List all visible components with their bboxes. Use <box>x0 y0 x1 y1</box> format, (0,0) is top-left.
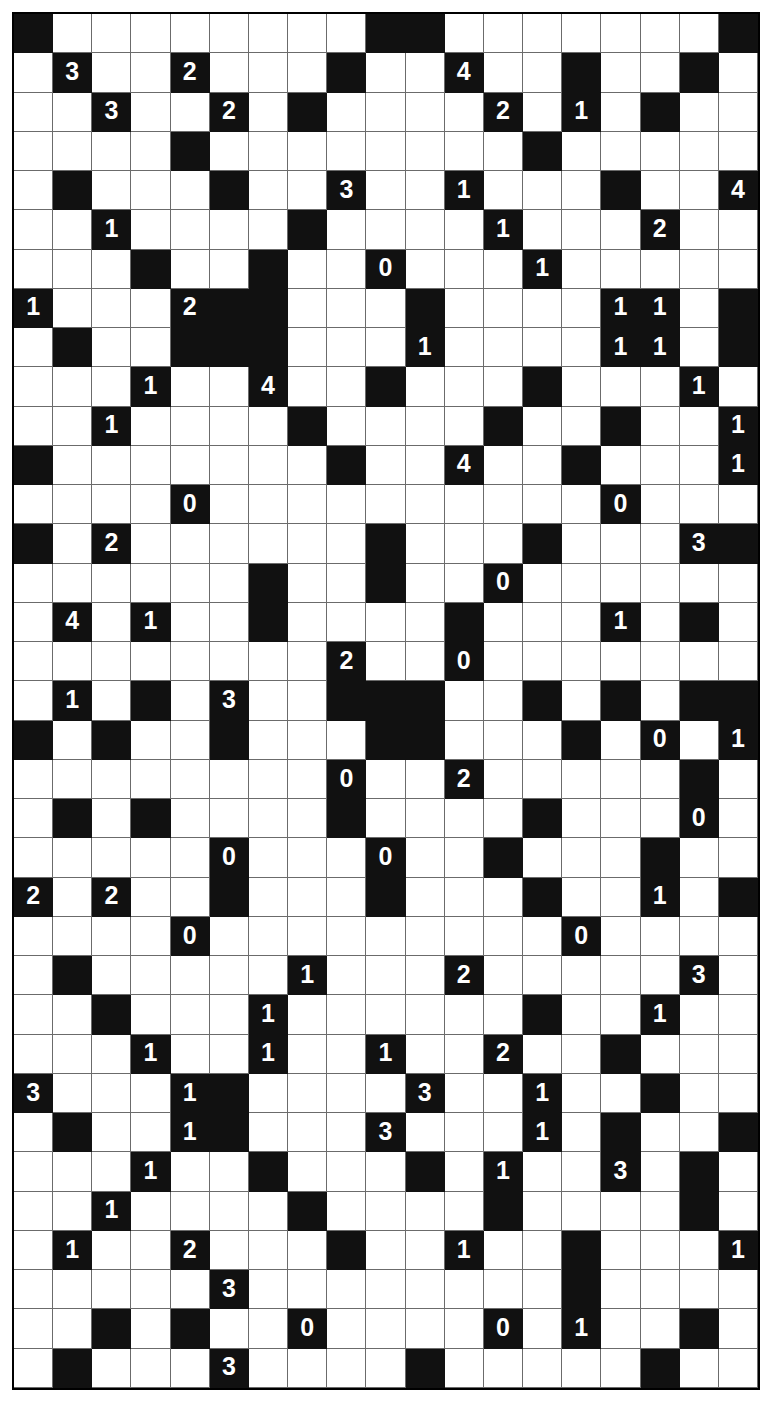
grid-cell-empty[interactable] <box>445 995 484 1034</box>
grid-cell-empty[interactable] <box>288 760 327 799</box>
grid-cell-empty[interactable] <box>366 210 405 249</box>
grid-cell-empty[interactable] <box>53 1074 92 1113</box>
grid-cell-empty[interactable] <box>210 1309 249 1348</box>
grid-cell-empty[interactable] <box>131 917 170 956</box>
grid-cell-filled[interactable] <box>249 289 288 328</box>
grid-cell-empty[interactable] <box>601 367 640 406</box>
grid-cell-empty[interactable] <box>406 956 445 995</box>
grid-cell-filled[interactable] <box>327 446 366 485</box>
grid-cell-filled[interactable] <box>131 250 170 289</box>
grid-cell-empty[interactable] <box>484 1113 523 1152</box>
grid-cell-empty[interactable] <box>641 132 680 171</box>
grid-cell-clue[interactable]: 2 <box>92 878 131 917</box>
grid-cell-clue[interactable]: 1 <box>641 289 680 328</box>
grid-cell-empty[interactable] <box>445 1309 484 1348</box>
grid-cell-clue[interactable]: 1 <box>131 1035 170 1074</box>
grid-cell-empty[interactable] <box>484 603 523 642</box>
grid-cell-empty[interactable] <box>484 328 523 367</box>
grid-cell-filled[interactable] <box>92 995 131 1034</box>
grid-cell-clue[interactable]: 1 <box>601 328 640 367</box>
grid-cell-empty[interactable] <box>131 956 170 995</box>
grid-cell-clue[interactable]: 2 <box>92 524 131 563</box>
grid-cell-empty[interactable] <box>288 14 327 53</box>
grid-cell-empty[interactable] <box>92 132 131 171</box>
grid-cell-empty[interactable] <box>601 524 640 563</box>
grid-cell-empty[interactable] <box>719 642 758 681</box>
grid-cell-empty[interactable] <box>210 799 249 838</box>
grid-cell-empty[interactable] <box>53 14 92 53</box>
grid-cell-empty[interactable] <box>680 171 719 210</box>
grid-cell-filled[interactable] <box>92 721 131 760</box>
grid-cell-clue[interactable]: 1 <box>641 878 680 917</box>
grid-cell-clue[interactable]: 2 <box>171 1231 210 1270</box>
grid-cell-filled[interactable] <box>366 14 405 53</box>
grid-cell-empty[interactable] <box>641 446 680 485</box>
grid-cell-empty[interactable] <box>210 603 249 642</box>
grid-cell-filled[interactable] <box>523 681 562 720</box>
grid-cell-empty[interactable] <box>92 485 131 524</box>
grid-cell-filled[interactable] <box>53 171 92 210</box>
grid-cell-clue[interactable]: 0 <box>171 917 210 956</box>
grid-cell-empty[interactable] <box>601 1309 640 1348</box>
grid-cell-empty[interactable] <box>131 995 170 1034</box>
grid-cell-empty[interactable] <box>484 995 523 1034</box>
grid-cell-clue[interactable]: 0 <box>641 721 680 760</box>
grid-cell-clue[interactable]: 2 <box>210 93 249 132</box>
grid-cell-empty[interactable] <box>601 14 640 53</box>
grid-cell-empty[interactable] <box>249 760 288 799</box>
grid-cell-empty[interactable] <box>680 642 719 681</box>
grid-cell-empty[interactable] <box>327 289 366 328</box>
grid-cell-empty[interactable] <box>131 1270 170 1309</box>
grid-cell-filled[interactable] <box>249 603 288 642</box>
grid-cell-empty[interactable] <box>562 681 601 720</box>
grid-cell-filled[interactable] <box>171 132 210 171</box>
grid-cell-filled[interactable] <box>680 1152 719 1191</box>
grid-cell-filled[interactable] <box>680 681 719 720</box>
grid-cell-empty[interactable] <box>641 250 680 289</box>
grid-cell-empty[interactable] <box>131 760 170 799</box>
grid-cell-empty[interactable] <box>719 917 758 956</box>
grid-cell-filled[interactable] <box>484 838 523 877</box>
grid-cell-empty[interactable] <box>562 995 601 1034</box>
grid-cell-empty[interactable] <box>131 289 170 328</box>
grid-cell-empty[interactable] <box>210 14 249 53</box>
grid-cell-empty[interactable] <box>249 407 288 446</box>
grid-cell-filled[interactable] <box>641 93 680 132</box>
grid-cell-filled[interactable] <box>406 1349 445 1388</box>
grid-cell-empty[interactable] <box>14 132 53 171</box>
grid-cell-empty[interactable] <box>523 1152 562 1191</box>
grid-cell-empty[interactable] <box>92 289 131 328</box>
grid-cell-empty[interactable] <box>14 485 53 524</box>
grid-cell-filled[interactable] <box>327 681 366 720</box>
grid-cell-empty[interactable] <box>53 1270 92 1309</box>
grid-cell-empty[interactable] <box>14 93 53 132</box>
grid-cell-filled[interactable] <box>406 14 445 53</box>
grid-cell-empty[interactable] <box>601 799 640 838</box>
grid-cell-empty[interactable] <box>406 878 445 917</box>
grid-cell-empty[interactable] <box>14 328 53 367</box>
grid-cell-empty[interactable] <box>680 289 719 328</box>
grid-cell-clue[interactable]: 1 <box>641 995 680 1034</box>
grid-cell-empty[interactable] <box>680 1074 719 1113</box>
grid-cell-clue[interactable]: 3 <box>14 1074 53 1113</box>
grid-cell-filled[interactable] <box>719 878 758 917</box>
grid-cell-empty[interactable] <box>288 289 327 328</box>
grid-cell-empty[interactable] <box>523 1035 562 1074</box>
grid-cell-empty[interactable] <box>171 760 210 799</box>
grid-cell-empty[interactable] <box>523 289 562 328</box>
grid-cell-clue[interactable]: 1 <box>523 1074 562 1113</box>
grid-cell-filled[interactable] <box>562 446 601 485</box>
grid-cell-empty[interactable] <box>53 564 92 603</box>
grid-cell-empty[interactable] <box>14 1309 53 1348</box>
grid-cell-empty[interactable] <box>562 14 601 53</box>
grid-cell-clue[interactable]: 1 <box>601 289 640 328</box>
grid-cell-empty[interactable] <box>14 564 53 603</box>
grid-cell-empty[interactable] <box>53 721 92 760</box>
grid-cell-empty[interactable] <box>406 917 445 956</box>
grid-cell-empty[interactable] <box>562 407 601 446</box>
grid-cell-clue[interactable]: 2 <box>484 1035 523 1074</box>
grid-cell-empty[interactable] <box>171 878 210 917</box>
grid-cell-empty[interactable] <box>327 721 366 760</box>
grid-cell-filled[interactable] <box>210 328 249 367</box>
grid-cell-filled[interactable] <box>14 446 53 485</box>
